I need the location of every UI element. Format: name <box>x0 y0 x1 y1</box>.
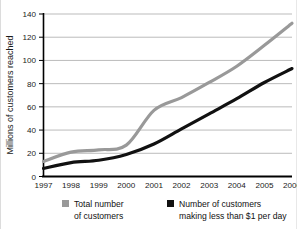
y-tick-label: 40 <box>27 126 37 135</box>
x-tick-label: 2004 <box>228 181 247 190</box>
chart-figure: 140120100806040200 199719981999200020012… <box>0 0 297 229</box>
x-tick-label: 2005 <box>255 181 274 190</box>
y-axis-ticks: 140120100806040200 <box>22 10 43 182</box>
legend-label-total-line1: Total number <box>74 199 124 209</box>
x-tick-label: 1999 <box>90 181 109 190</box>
legend-label-total-line2: of customers <box>74 211 123 221</box>
y-tick-label: 80 <box>27 80 37 89</box>
y-tick-label: 120 <box>22 33 36 42</box>
chart-legend: Total number of customers Number of cust… <box>62 199 287 221</box>
x-tick-label: 1998 <box>62 181 81 190</box>
x-tick-label: 2003 <box>200 181 219 190</box>
y-tick-label: 60 <box>27 103 37 112</box>
y-axis-label: Millions of customers reached <box>5 35 15 154</box>
legend-swatch-poor <box>167 200 174 207</box>
legend-label-poor-line1: Number of customers <box>179 199 261 209</box>
legend-label-poor-line2: making less than $1 per day <box>179 211 287 221</box>
x-tick-label: 2001 <box>145 181 164 190</box>
y-tick-label: 20 <box>27 149 37 158</box>
x-tick-label: 2006 <box>283 181 297 190</box>
legend-swatch-total <box>62 200 69 207</box>
x-axis-ticks: 1997199819992000200120022003200420052006 <box>34 181 297 190</box>
x-tick-label: 1997 <box>34 181 53 190</box>
y-tick-label: 140 <box>22 10 36 19</box>
y-tick-label: 100 <box>22 56 36 65</box>
line-chart: 140120100806040200 199719981999200020012… <box>1 0 297 229</box>
x-tick-label: 2000 <box>117 181 136 190</box>
x-tick-label: 2002 <box>173 181 192 190</box>
